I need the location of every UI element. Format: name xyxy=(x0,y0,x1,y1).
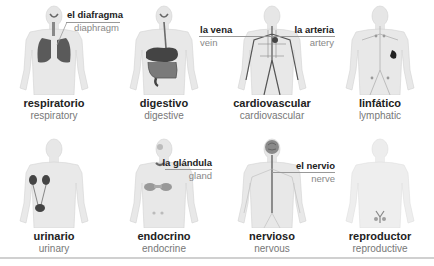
system-reproductive: reproductor reproductive xyxy=(326,133,434,266)
leader-line xyxy=(55,21,69,47)
callout-label-english: gland xyxy=(162,170,212,181)
caption-spanish: reproductor xyxy=(326,230,434,242)
caption-spanish: urinario xyxy=(0,230,108,242)
urinary-figure xyxy=(0,133,108,228)
callout-label-spanish: la vena xyxy=(200,24,232,35)
callout-label-english: vein xyxy=(200,37,232,48)
caption-english: urinary xyxy=(0,243,108,254)
caption-english: reproductive xyxy=(326,243,434,254)
page-divider xyxy=(0,257,434,259)
system-urinary: urinario urinary xyxy=(0,133,108,266)
caption-spanish: endocrino xyxy=(110,230,218,242)
caption-spanish: linfático xyxy=(326,97,434,109)
reproductive-figure xyxy=(326,133,434,228)
callout-rule xyxy=(165,169,212,170)
system-cardiovascular: cardiovascular cardiovascular xyxy=(218,0,326,133)
caption-english: cardiovascular xyxy=(218,110,326,121)
callout-rule xyxy=(199,36,335,37)
caption-spanish: respiratorio xyxy=(0,97,108,109)
caption-english: nervous xyxy=(218,243,326,254)
system-lymphatic: linfático lymphatic xyxy=(326,0,434,133)
callout-label-spanish: la glándula xyxy=(162,157,212,168)
system-nervous: nervioso nervous xyxy=(218,133,326,266)
system-endocrine: endocrino endocrine xyxy=(110,133,218,266)
caption-english: endocrine xyxy=(110,243,218,254)
caption-spanish: digestivo xyxy=(110,97,218,109)
caption-spanish: nervioso xyxy=(218,230,326,242)
caption-english: digestive xyxy=(110,110,218,121)
caption-english: lymphatic xyxy=(326,110,434,121)
lymphatic-figure xyxy=(326,0,434,95)
caption-spanish: cardiovascular xyxy=(218,97,326,109)
caption-english: respiratory xyxy=(0,110,108,121)
system-digestive: digestivo digestive xyxy=(110,0,218,133)
